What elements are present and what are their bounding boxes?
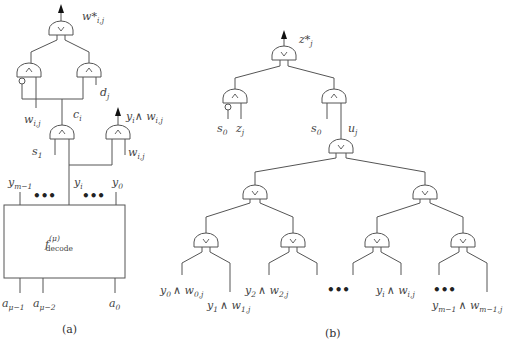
label-y-m-1: ym−1: [7, 176, 32, 191]
negation-bubble: [225, 104, 231, 110]
label-uj: uj: [348, 122, 358, 137]
label-s0-right: s0: [311, 122, 322, 137]
or-gate-l3-4: [451, 233, 475, 247]
ellipsis-right: •••: [433, 283, 456, 297]
label-c: ci: [73, 108, 82, 123]
output-arrow-icon: [281, 30, 287, 47]
label-a-mu-1: aμ−1: [2, 297, 25, 312]
label-yw: yi∧ wi,j: [125, 110, 163, 125]
leaf-label-i: yi∧ wi,j: [375, 284, 415, 299]
leaf-label-0: y0∧ w0,j: [159, 284, 204, 299]
or-gate-l2-right: [413, 185, 437, 199]
and-gate-ci: [50, 125, 74, 139]
leaf-label-1: y1∧ w1,j: [206, 299, 251, 314]
caption-b: (b): [325, 327, 341, 340]
or-gate-l2-left: [243, 185, 267, 199]
panel-b: z*j s0 zj s0 uj y0∧ w0,j y1∧ w1,j y2∧ w2…: [159, 30, 503, 340]
and-gate-s0-uj: [322, 89, 346, 103]
output-arrow-icon: [58, 4, 64, 22]
panel-a: w*i,j dj wi,j ci s1 yi∧ wi,j wi,j ym−1 y…: [2, 4, 163, 336]
or-gate-l3-2: [281, 233, 305, 247]
label-s0-left: s0: [217, 122, 228, 137]
label-w-star: w*i,j: [82, 10, 105, 25]
label-z-star: z*j: [298, 33, 313, 48]
label-w-left: wi,j: [24, 113, 41, 128]
and-gate-s0-zj: [223, 89, 247, 103]
or-gate-l3-3: [365, 233, 389, 247]
or-gate-zj: [272, 46, 296, 60]
ellipsis-left: •••: [33, 189, 56, 203]
label-a-mu-2: aμ−2: [33, 297, 56, 312]
label-w-right: wi,j: [128, 146, 145, 161]
negation-bubble: [19, 78, 25, 84]
and-gate-right: [77, 63, 101, 77]
leaf-label-m-1: ym−1∧ wm−1,j: [431, 299, 503, 314]
or-gate-root: [329, 139, 353, 153]
output-arrow-icon: [115, 107, 121, 126]
decoder-block: [4, 205, 125, 278]
caption-a: (a): [62, 323, 77, 336]
label-s1: s1: [32, 145, 42, 160]
label-d: dj: [100, 86, 110, 101]
and-gate-yw: [106, 125, 130, 139]
or-gate-output: [49, 21, 73, 35]
or-gate-l3-1: [194, 233, 218, 247]
label-a-0: a0: [109, 297, 121, 312]
and-gate-left: [17, 63, 41, 77]
ellipsis-right: •••: [82, 189, 105, 203]
leaf-label-2: y2∧ w2,j: [244, 284, 289, 299]
label-zj: zj: [235, 122, 245, 137]
label-y-0: y0: [111, 176, 123, 191]
ellipsis-mid: •••: [327, 283, 350, 297]
circuit-diagram: w*i,j dj wi,j ci s1 yi∧ wi,j wi,j ym−1 y…: [0, 0, 523, 351]
